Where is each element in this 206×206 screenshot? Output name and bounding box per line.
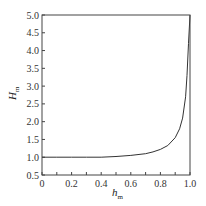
x-tick-label: 0.4 xyxy=(95,178,108,189)
x-tick-label: 1.0 xyxy=(184,178,197,189)
x-tick-label: 0.2 xyxy=(65,178,78,189)
y-tick-label: 0.5 xyxy=(27,170,40,181)
y-tick-label: 1.5 xyxy=(27,134,40,145)
y-tick-label: 4.5 xyxy=(27,27,40,38)
x-tick-label: 0.8 xyxy=(154,178,167,189)
x-tick-labels: 00.20.40.60.81.0 xyxy=(40,178,197,189)
plot-frame xyxy=(42,15,190,175)
data-line xyxy=(42,15,190,157)
y-axis-label: Hm xyxy=(6,86,21,101)
y-tick-label: 3.0 xyxy=(27,81,40,92)
x-axis-label: hm xyxy=(112,186,124,201)
y-tick-label: 1.0 xyxy=(27,152,40,163)
y-tick-label: 5.0 xyxy=(27,10,40,21)
y-tick-label: 2.0 xyxy=(27,116,40,127)
x-tick-label: 0 xyxy=(40,178,45,189)
chart: 00.20.40.60.81.0 0.51.01.52.02.53.03.54.… xyxy=(0,0,206,206)
y-tick-label: 2.5 xyxy=(27,98,40,109)
ticks xyxy=(42,15,190,175)
y-tick-label: 4.0 xyxy=(27,45,40,56)
y-tick-labels: 0.51.01.52.02.53.03.54.04.55.0 xyxy=(27,10,40,181)
y-tick-label: 3.5 xyxy=(27,63,40,74)
x-tick-label: 0.6 xyxy=(125,178,138,189)
